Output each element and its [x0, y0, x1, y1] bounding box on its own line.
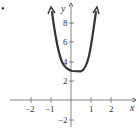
x-tick-label: 2 — [109, 104, 114, 114]
y-axis-label: y — [60, 3, 66, 14]
y-tick-label: 6 — [63, 37, 68, 47]
graph: −2 −1 1 2 8 6 4 2 −2 x y — [0, 0, 139, 132]
y-tick-label: 8 — [63, 18, 68, 28]
x-axis-label: x — [129, 102, 135, 113]
y-tick-label: −2 — [58, 115, 68, 125]
x-tick-label: −2 — [25, 104, 35, 114]
y-tick-label: 2 — [63, 76, 68, 86]
x-tick-label: −1 — [45, 104, 55, 114]
x-tick-label: 1 — [89, 104, 94, 114]
